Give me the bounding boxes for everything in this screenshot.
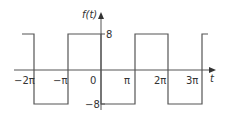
square-wave-chart: f(t) t −2π −π 0 π 2π 3π 8 −8 (0, 0, 226, 118)
y-tick-label-8: 8 (106, 29, 112, 40)
y-axis-label: f(t) (82, 9, 97, 20)
x-tick-label-3pi: 3π (186, 75, 198, 86)
x-tick-label-negpi: −π (53, 75, 67, 86)
y-tick-label-neg8: −8 (85, 99, 100, 110)
x-tick-label-zero: 0 (90, 75, 96, 86)
x-axis-label: t (210, 73, 215, 84)
x-tick-label-neg2pi: −2π (14, 75, 35, 86)
x-tick-label-pi: π (124, 75, 130, 86)
square-wave-line (22, 34, 208, 104)
chart-svg: f(t) t −2π −π 0 π 2π 3π 8 −8 (0, 0, 226, 118)
y-axis-arrow-icon (98, 12, 104, 19)
x-tick-label-2pi: 2π (154, 75, 166, 86)
